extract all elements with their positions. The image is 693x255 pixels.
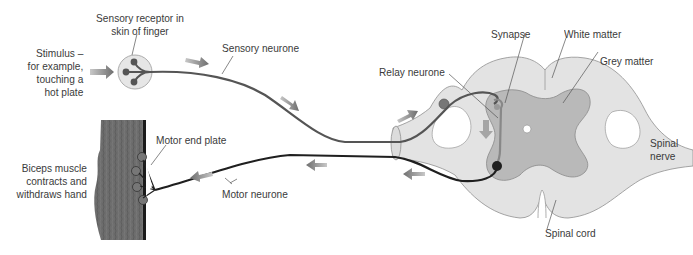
stimulus-line-4: hot plate [27, 86, 83, 99]
sensory-receptor [118, 55, 152, 89]
biceps-line-2: contracts and [17, 175, 87, 188]
sensory-receptor-line-1: Sensory receptor in [92, 12, 189, 25]
spinal-nerve-line-2: nerve [650, 150, 678, 163]
white-matter-label: White matter [564, 28, 621, 41]
biceps-line-3: withdraws hand [17, 188, 87, 201]
sensory-receptor-label: Sensory receptor in skin of finger [92, 12, 189, 38]
stimulus-label: Stimulus – for example, touching a hot p… [27, 47, 83, 99]
spinal-cord-label: Spinal cord [545, 227, 596, 240]
relay-neurone-label: Relay neurone [379, 66, 445, 79]
spinal-nerve-line-1: Spinal [650, 137, 678, 150]
motor-end-plate-label: Motor end plate [156, 134, 226, 147]
stimulus-line-1: Stimulus – [27, 47, 83, 60]
grey-matter-label: Grey matter [600, 55, 653, 68]
synapse-label: Synapse [491, 28, 530, 41]
motor-cell-body [492, 161, 502, 171]
spinal-nerve-label: Spinal nerve [650, 137, 678, 163]
central-canal [523, 125, 531, 133]
biceps-line-1: Biceps muscle [17, 162, 87, 175]
sensory-neurone-label: Sensory neurone [222, 42, 299, 55]
stimulus-line-2: for example, [27, 60, 83, 73]
spinal-cord [391, 57, 693, 218]
biceps-muscle [94, 120, 155, 240]
biceps-label: Biceps muscle contracts and withdraws ha… [17, 162, 87, 201]
motor-neurone-label: Motor neurone [222, 188, 288, 201]
sensory-receptor-line-2: skin of finger [92, 25, 189, 38]
stimulus-line-3: touching a [27, 73, 83, 86]
